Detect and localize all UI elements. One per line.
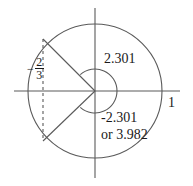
alternate-angle-label: or 3.982 xyxy=(101,128,148,142)
figure-canvas: 2.301 -2.301 or 3.982 1 − 2 3 xyxy=(0,0,193,186)
x-coordinate-fraction-label: − 2 3 xyxy=(27,56,44,81)
fraction-denominator: 3 xyxy=(35,69,43,81)
fraction-minus-sign: − xyxy=(27,63,34,75)
terminal-ray-positive xyxy=(43,39,95,91)
unit-radius-label: 1 xyxy=(168,96,175,110)
negative-angle-label: -2.301 xyxy=(101,111,137,125)
inner-angle-arc-positive xyxy=(80,69,117,91)
fraction-numerator: 2 xyxy=(35,56,43,68)
unit-circle-diagram xyxy=(0,0,193,186)
positive-angle-label: 2.301 xyxy=(104,52,136,66)
terminal-ray-negative xyxy=(43,91,95,141)
fraction-stack: 2 3 xyxy=(35,56,44,81)
